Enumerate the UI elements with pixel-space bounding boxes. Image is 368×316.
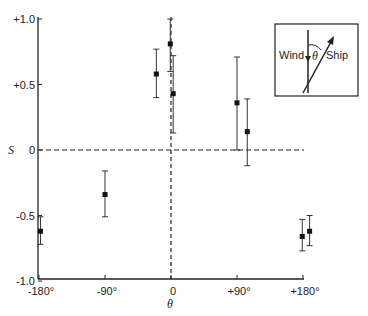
x-tick-label: -90° [97,285,117,297]
marker [300,234,305,239]
y-tick-label: -0.5 [16,210,35,222]
inset-wind-label: Wind [279,49,304,61]
marker [307,229,312,234]
data-point [153,49,159,97]
x-tick-label: -180° [28,285,54,297]
marker [171,91,176,96]
x-tick-label: +90° [227,285,250,297]
data-point [167,19,173,71]
y-axis-title: S [8,143,14,157]
inset-diagram: Wind Ship θ [275,24,358,96]
marker [154,72,159,77]
x-tick-label: 0 [170,285,176,297]
marker [103,192,108,197]
data-point [234,57,240,150]
data-point [307,216,313,246]
marker [245,129,250,134]
x-tick-label: +180° [290,285,319,297]
chart: +1.0+0.50-0.5-1.0 -180°-90°0+90°+180° S … [0,0,368,316]
y-tick-label: 0 [29,144,35,156]
data-point [244,99,250,166]
data-point [102,171,108,217]
y-tick-label: +0.5 [13,79,35,91]
x-ticks: -180°-90°0+90°+180° [28,275,320,297]
marker [168,41,173,46]
inset-ship-label: Ship [326,49,348,61]
data-points [37,19,312,251]
y-tick-label: +1.0 [13,13,35,25]
axes [38,17,304,279]
inset-angle-label: θ [312,49,318,63]
x-axis-title: θ [167,297,173,311]
data-point [299,219,305,250]
marker [235,100,240,105]
marker [38,229,43,234]
